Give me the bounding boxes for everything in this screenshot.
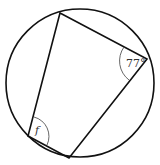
cyclic-quadrilateral-diagram: 77° f — [0, 0, 160, 165]
angle-label-77: 77° — [126, 57, 146, 70]
angle-label-f: f — [34, 124, 41, 137]
quadrilateral — [28, 13, 147, 158]
